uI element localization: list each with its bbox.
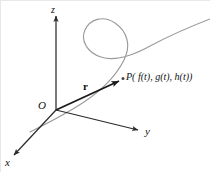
figure-canvas xyxy=(0,0,210,172)
vector-r-label: r xyxy=(83,81,88,92)
x-axis xyxy=(14,110,56,155)
origin-label: O xyxy=(38,100,46,111)
point-p-marker xyxy=(122,77,125,80)
space-curve-figure: z y x O r P( f(t), g(t), h(t)) xyxy=(0,0,210,172)
y-axis xyxy=(56,110,138,130)
z-axis-label: z xyxy=(51,5,55,15)
y-axis-label: y xyxy=(145,126,150,137)
point-p-label: P( f(t), g(t), h(t)) xyxy=(126,72,192,82)
x-axis-label: x xyxy=(5,157,10,168)
